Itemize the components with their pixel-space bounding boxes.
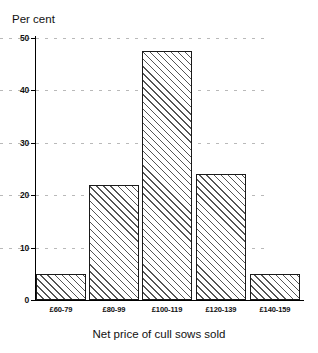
gridline-50 [0, 38, 269, 39]
x-tick-label-4: £140-159 [248, 305, 302, 314]
x-tick-label-2: £100-119 [140, 305, 194, 314]
x-axis-line [31, 300, 304, 301]
bar-4 [250, 274, 300, 300]
y-tick-mark-30 [31, 143, 35, 144]
top-caption-fragment [8, 0, 308, 7]
bar-0 [36, 274, 86, 300]
y-tick-mark-0 [31, 300, 35, 301]
y-tick-label-wrap-10: 10 [0, 244, 29, 253]
x-axis-title: Net price of cull sows sold [0, 328, 318, 341]
y-tick-label-40: 40 [3, 86, 29, 95]
gridline-30 [0, 143, 269, 144]
y-tick-label-30: 30 [3, 139, 29, 148]
y-tick-label-20: 20 [3, 191, 29, 200]
y-tick-mark-10 [31, 248, 35, 249]
y-axis-line [35, 36, 36, 301]
y-tick-label-10: 10 [3, 244, 29, 253]
gridline-40 [0, 90, 269, 91]
y-tick-mark-20 [31, 195, 35, 196]
bar-3 [196, 174, 246, 300]
y-tick-mark-40 [31, 90, 35, 91]
y-tick-label-wrap-50: 50 [0, 34, 29, 43]
y-tick-label-wrap-20: 20 [0, 191, 29, 200]
y-axis-title: Per cent [12, 13, 55, 26]
y-tick-label-0: 0 [3, 296, 29, 305]
y-tick-label-wrap-40: 40 [0, 86, 29, 95]
bar-2 [142, 51, 192, 300]
y-tick-mark-50 [31, 38, 35, 39]
bar-1 [89, 185, 139, 300]
y-tick-label-wrap-30: 30 [0, 139, 29, 148]
y-tick-label-50: 50 [3, 34, 29, 43]
y-tick-label-wrap-0: 0 [0, 296, 29, 305]
bottom-caption-fragment [8, 346, 308, 353]
bar-chart-figure: Per cent 50 40 30 20 10 0 £60-79 £80-99 … [0, 0, 318, 353]
x-tick-label-3: £120-139 [194, 305, 248, 314]
x-tick-label-0: £60-79 [36, 305, 86, 314]
x-tick-label-1: £80-99 [89, 305, 139, 314]
